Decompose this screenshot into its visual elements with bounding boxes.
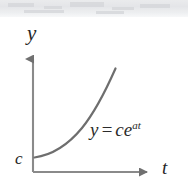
y-axis-label: y	[27, 23, 36, 44]
exponential-growth-figure: y t c y=ceat	[0, 0, 188, 188]
y-intercept-label: c	[15, 150, 23, 167]
equation-operator: =	[98, 119, 115, 140]
equation-rhs-base: ce	[115, 119, 132, 140]
exponential-curve	[35, 69, 116, 158]
t-axis-label: t	[162, 158, 167, 177]
equation-annotation: y=ceat	[90, 120, 141, 139]
equation-rhs-exponent: at	[132, 119, 141, 131]
